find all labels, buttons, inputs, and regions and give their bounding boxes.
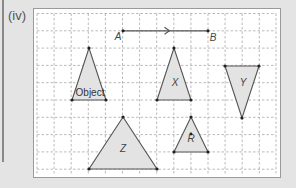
shape-label: Z	[119, 143, 127, 154]
shape-z: Z	[87, 115, 158, 170]
vertex-dot	[206, 150, 209, 153]
vertex-dot	[155, 167, 158, 170]
vertex-dot	[121, 115, 124, 118]
vertex-dot	[189, 98, 192, 101]
point-dot	[190, 133, 193, 136]
shape-object: Object	[70, 46, 107, 101]
vertex-dot	[104, 98, 107, 101]
shape-label: X	[171, 77, 179, 88]
vertex-dot	[87, 46, 90, 49]
shape-x: X	[155, 46, 192, 101]
shape-y: Y	[223, 64, 260, 119]
translation-diagram: ObjectXYZR AB	[0, 0, 296, 188]
vertex-dot	[223, 64, 226, 67]
vertex-dot	[189, 115, 192, 118]
point-a-label: A	[114, 31, 122, 42]
vertex-dot	[172, 150, 175, 153]
triangle	[225, 66, 259, 118]
triangle	[157, 48, 191, 100]
vertex-dot	[240, 116, 243, 119]
point-a-dot	[121, 29, 124, 32]
vertex-dot	[172, 46, 175, 49]
shape-label: Object	[76, 87, 105, 98]
vertex-dot	[70, 98, 73, 101]
vertex-dot	[257, 64, 260, 67]
vertex-dot	[155, 98, 158, 101]
point-b-label: B	[210, 32, 217, 43]
vertex-dot	[87, 167, 90, 170]
translation-vector: AB	[114, 27, 217, 43]
